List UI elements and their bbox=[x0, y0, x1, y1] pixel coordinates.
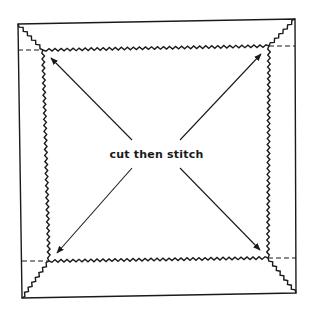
instruction-label: cut then stitch bbox=[0, 148, 313, 161]
arrow-bottom-left bbox=[57, 168, 132, 253]
arrow-top-left bbox=[51, 58, 132, 140]
arrow-bottom-right bbox=[180, 168, 260, 250]
arrow-top-right bbox=[180, 54, 261, 140]
